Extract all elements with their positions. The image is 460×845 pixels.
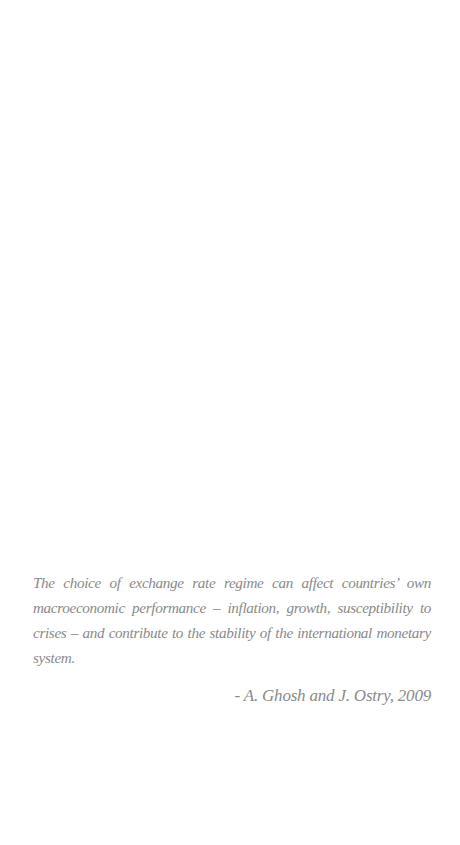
- document-page: The choice of exchange rate regime can a…: [0, 0, 460, 845]
- epigraph-attribution: - A. Ghosh and J. Ostry, 2009: [33, 684, 431, 708]
- epigraph-quote: The choice of exchange rate regime can a…: [33, 570, 431, 670]
- epigraph: The choice of exchange rate regime can a…: [33, 570, 431, 708]
